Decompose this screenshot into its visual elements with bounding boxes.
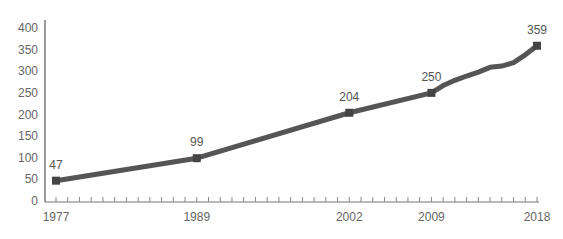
data-labels: 4799204250359 [49, 23, 547, 172]
y-tick-label: 50 [25, 172, 39, 186]
data-point-marker [345, 109, 353, 117]
y-tick-label: 300 [18, 64, 38, 78]
data-point-marker [427, 89, 435, 97]
data-series [52, 42, 541, 185]
y-tick-label: 400 [18, 21, 38, 35]
data-point-label: 47 [49, 158, 63, 172]
data-point-marker [193, 154, 201, 162]
y-tick-label: 150 [18, 129, 38, 143]
y-tick-label: 350 [18, 43, 38, 57]
x-axis: 19771989200220092018 [43, 197, 551, 224]
data-point-label: 250 [421, 70, 441, 84]
y-axis: 050100150200250300350400 [18, 20, 45, 208]
y-tick-label: 250 [18, 86, 38, 100]
data-point-label: 99 [190, 135, 204, 149]
x-tick-label: 1977 [43, 210, 70, 224]
data-point-label: 359 [527, 23, 547, 37]
x-tick-label: 2018 [524, 210, 551, 224]
series-line [56, 46, 537, 181]
x-tick-label: 2009 [418, 210, 445, 224]
x-tick-label: 1989 [183, 210, 210, 224]
line-chart: 050100150200250300350400 197719892002200… [0, 0, 563, 239]
y-tick-label: 200 [18, 108, 38, 122]
y-tick-label: 0 [31, 194, 38, 208]
data-point-label: 204 [339, 90, 359, 104]
y-tick-label: 100 [18, 151, 38, 165]
data-point-marker [52, 177, 60, 185]
data-point-marker [533, 42, 541, 50]
x-tick-label: 2002 [336, 210, 363, 224]
